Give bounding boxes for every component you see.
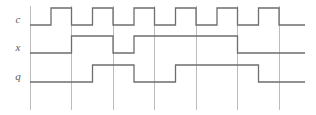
- timing-diagram: cxq: [0, 0, 316, 115]
- signal-label-q: q: [15, 70, 21, 82]
- timing-diagram-canvas: cxq: [0, 0, 316, 115]
- waveform-x: [30, 36, 305, 53]
- signal-label-c: c: [16, 13, 21, 25]
- signal-labels: cxq: [15, 13, 22, 82]
- waveform-c: [30, 8, 305, 25]
- signal-label-x: x: [15, 41, 21, 53]
